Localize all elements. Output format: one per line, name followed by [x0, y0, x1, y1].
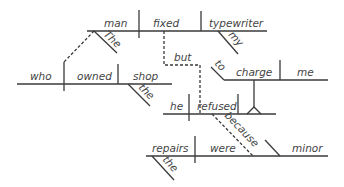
relative-connector	[64, 31, 94, 62]
relative-clause: who owned shop the	[17, 62, 172, 106]
word-charge: charge	[236, 66, 272, 78]
complement-divider	[265, 140, 280, 156]
word-owned: owned	[77, 70, 112, 82]
main-clause: man fixed typewriter The my	[87, 10, 267, 54]
word-me: me	[297, 66, 314, 78]
adverbial-clause: repairs were minor the	[146, 136, 328, 180]
word-minor: minor	[292, 142, 323, 154]
stand-base	[247, 107, 261, 114]
word-were: were	[210, 142, 236, 154]
word-shop: shop	[133, 70, 159, 82]
word-he: he	[170, 100, 183, 112]
word-fixed: fixed	[153, 17, 179, 29]
word-man: man	[104, 17, 127, 29]
word-but: but	[174, 51, 192, 63]
word-who: who	[30, 70, 52, 82]
word-typewriter: typewriter	[209, 17, 264, 29]
word-repairs: repairs	[152, 142, 189, 154]
sentence-diagram: man fixed typewriter The my who owned sh…	[0, 0, 344, 187]
second-clause: he refused	[163, 94, 276, 121]
